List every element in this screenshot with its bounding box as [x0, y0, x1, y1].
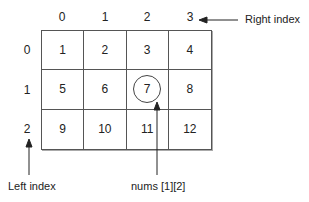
left-index-arrow-icon	[26, 139, 32, 175]
element-ref-label: nums [1][2]	[131, 180, 185, 192]
right-index-arrow-icon	[199, 17, 238, 23]
arrows-layer	[0, 0, 309, 202]
left-index-label: Left index	[8, 180, 56, 192]
element-ref-arrow-icon	[154, 102, 160, 175]
right-index-label: Right index	[245, 13, 300, 25]
